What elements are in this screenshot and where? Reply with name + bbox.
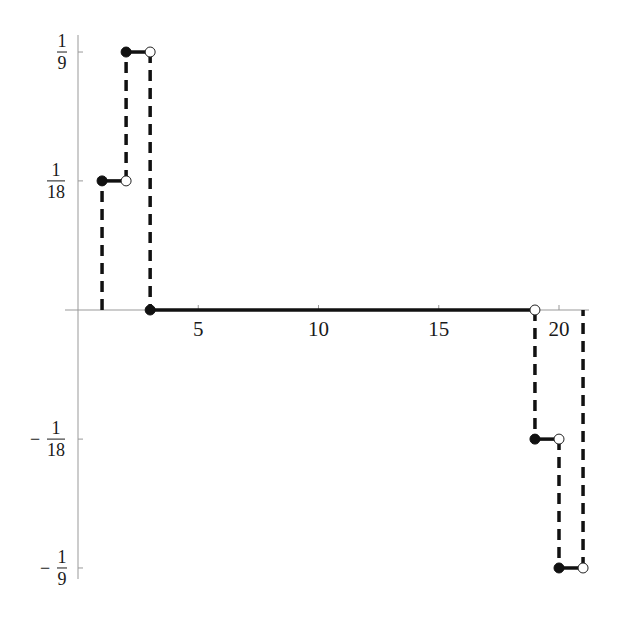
step-series <box>97 47 588 573</box>
filled-endpoint <box>530 434 540 444</box>
filled-endpoint <box>554 563 564 573</box>
y-tick-numerator: 1 <box>52 160 61 180</box>
open-endpoint <box>578 563 588 573</box>
y-tick-denominator: 9 <box>58 53 67 73</box>
open-endpoint <box>145 47 155 57</box>
y-tick-denominator: 9 <box>58 569 67 589</box>
open-endpoint <box>530 305 540 315</box>
x-tick-label: 5 <box>193 317 204 341</box>
x-tick-label: 10 <box>308 317 329 341</box>
axes <box>65 35 589 579</box>
open-endpoint <box>554 434 564 444</box>
y-tick-denominator: 18 <box>47 182 65 202</box>
x-tick-label: 20 <box>549 317 570 341</box>
step-function-chart: 510152019118118−19− <box>0 0 622 617</box>
filled-endpoint <box>97 176 107 186</box>
filled-endpoint <box>145 305 155 315</box>
filled-endpoint <box>121 47 131 57</box>
y-tick-numerator: 1 <box>58 547 67 567</box>
y-tick-denominator: 18 <box>47 440 65 460</box>
y-tick-numerator: 1 <box>52 418 61 438</box>
y-tick-numerator: 1 <box>58 31 67 51</box>
open-endpoint <box>121 176 131 186</box>
x-tick-label: 15 <box>428 317 449 341</box>
y-tick-sign: − <box>40 558 50 578</box>
y-tick-sign: − <box>30 429 40 449</box>
